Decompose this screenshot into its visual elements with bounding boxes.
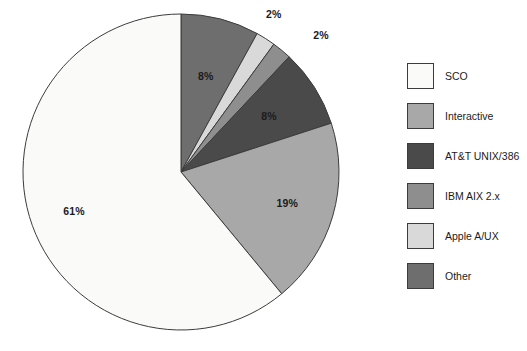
pie-plot-area: 8% 2% 2% 8% 19% 61%: [0, 0, 380, 351]
slice-value-label-sco: 61%: [63, 205, 84, 216]
pie-slice-group: [23, 14, 339, 330]
legend-swatch-interactive: [407, 103, 434, 129]
slice-value-label-other: 8%: [198, 70, 213, 81]
legend-label-apple-aux: Apple A/UX: [445, 231, 499, 242]
legend-swatch-apple-aux: [407, 223, 434, 249]
pie-chart-figure: 8% 2% 2% 8% 19% 61% SCO Interactive AT&T…: [0, 0, 527, 351]
legend-label-att-unix-386: AT&T UNIX/386: [445, 151, 519, 162]
legend-swatch-other: [407, 263, 434, 289]
legend-label-other: Other: [445, 271, 471, 282]
legend-item-ibm-aix: IBM AIX 2.x: [407, 176, 525, 216]
slice-value-label-apple-aux: 2%: [266, 9, 281, 20]
slice-value-label-ibm-aix: 2%: [313, 30, 328, 41]
legend-item-apple-aux: Apple A/UX: [407, 216, 525, 256]
legend-item-att-unix-386: AT&T UNIX/386: [407, 136, 525, 176]
legend-swatch-ibm-aix: [407, 183, 434, 209]
legend-item-sco: SCO: [407, 56, 525, 96]
legend-item-other: Other: [407, 256, 525, 296]
legend-swatch-att-unix-386: [407, 143, 434, 169]
legend-item-interactive: Interactive: [407, 96, 525, 136]
legend-label-ibm-aix: IBM AIX 2.x: [445, 191, 500, 202]
legend-label-sco: SCO: [445, 71, 468, 82]
legend-swatch-sco: [407, 63, 434, 89]
legend-label-interactive: Interactive: [445, 111, 493, 122]
slice-value-label-interactive: 19%: [277, 198, 298, 209]
slice-value-label-att-unix: 8%: [261, 111, 276, 122]
chart-legend: SCO Interactive AT&T UNIX/386 IBM AIX 2.…: [407, 56, 525, 296]
pie-svg: [0, 0, 380, 351]
